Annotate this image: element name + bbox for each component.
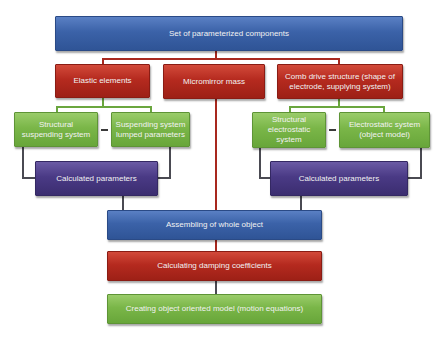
connector-micromirror-to-assembly [215, 99, 217, 210]
connector-comb-bar [289, 106, 385, 108]
box-electrostatic-system-object-model: Electrostatic system (object model) [339, 112, 430, 148]
dash-right-pair [329, 129, 336, 131]
box-creating-object-oriented-model: Creating object oriented model (motion e… [107, 294, 322, 324]
box-suspending-system-lumped-parameters-label: Suspending system lumped parameters [115, 120, 186, 140]
connector-left-g2-down [169, 147, 171, 179]
top-box-label: Set of parameterized components [169, 29, 289, 39]
box-calculated-parameters-left: Calculated parameters [35, 161, 158, 196]
box-suspending-system-lumped-parameters: Suspending system lumped parameters [111, 112, 190, 147]
connector-right-g2-in [407, 177, 422, 179]
top-box-parameterized-components: Set of parameterized components [55, 16, 403, 51]
box-structural-electrostatic-system-label: Structural electrostatic system [256, 115, 322, 145]
box-assembling-whole-object-label: Assembling of whole object [166, 220, 263, 230]
connector-top-bar [102, 58, 340, 60]
connector-left-g2-in [157, 177, 171, 179]
box-elastic-elements-label: Elastic elements [73, 76, 131, 86]
box-micromirror-mass: Micromirror mass [163, 64, 265, 99]
connector-right-purple-down [300, 196, 302, 210]
box-calculated-parameters-right: Calculated parameters [270, 161, 408, 196]
box-calculating-damping-coefficients: Calculating damping coefficients [107, 251, 322, 281]
box-comb-drive-structure-label: Comb drive structure (shape of electrode… [281, 72, 399, 92]
connector-left-purple-down [122, 196, 124, 210]
box-calculating-damping-coefficients-label: Calculating damping coefficients [157, 261, 272, 271]
connector-assembly-to-damping [215, 240, 217, 251]
connector-damping-to-final [215, 281, 217, 294]
box-assembling-whole-object: Assembling of whole object [107, 210, 322, 240]
box-structural-suspending-system: Structural suspending system [14, 112, 98, 147]
box-structural-suspending-system-label: Structural suspending system [18, 120, 94, 140]
box-electrostatic-system-object-model-label: Electrostatic system (object model) [343, 120, 426, 140]
box-creating-object-oriented-model-label: Creating object oriented model (motion e… [126, 304, 303, 314]
box-calculated-parameters-left-label: Calculated parameters [56, 174, 136, 184]
connector-right-g2-down [420, 148, 422, 179]
box-structural-electrostatic-system: Structural electrostatic system [252, 112, 326, 148]
connector-left-g1-in [22, 177, 36, 179]
connector-elastic-bar [56, 106, 152, 108]
connector-right-g1-down [259, 148, 261, 179]
box-elastic-elements: Elastic elements [55, 64, 150, 98]
box-calculated-parameters-right-label: Calculated parameters [299, 174, 379, 184]
dash-left-pair [101, 129, 108, 131]
box-micromirror-mass-label: Micromirror mass [183, 77, 245, 87]
box-comb-drive-structure: Comb drive structure (shape of electrode… [277, 64, 403, 99]
connector-left-g1-down [22, 147, 24, 179]
